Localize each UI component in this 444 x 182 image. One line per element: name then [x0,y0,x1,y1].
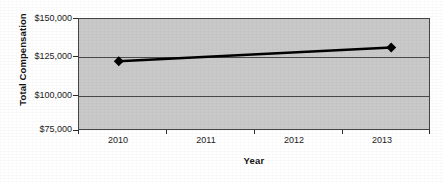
x-tick-label-2012: 2012 [259,135,329,145]
line-chart: Total Compensation $150,000 $125,000 $10… [0,0,444,182]
series-layer [79,19,429,129]
x-tick-label-2013: 2013 [347,135,417,145]
y-axis-tick-labels: $150,000 $125,000 $100,000 $75,000 [14,0,72,182]
x-tick-mark-end [429,130,430,134]
y-tick-label-100000: $100,000 [14,90,72,100]
series-line [119,47,391,61]
x-tick-label-2011: 2011 [171,135,241,145]
y-tick-label-75000: $75,000 [14,124,72,134]
x-tick-mark-1 [166,130,167,134]
x-axis-title: Year [78,155,430,166]
x-tick-label-2010: 2010 [83,135,153,145]
x-tick-mark-start [78,130,79,134]
y-tick-label-125000: $125,000 [14,51,72,61]
plot-area [78,18,430,130]
x-tick-mark-3 [342,130,343,134]
data-point-marker-2010 [114,56,124,66]
x-tick-mark-2 [254,130,255,134]
y-tick-label-150000: $150,000 [14,13,72,23]
data-point-marker-2013 [386,43,396,53]
